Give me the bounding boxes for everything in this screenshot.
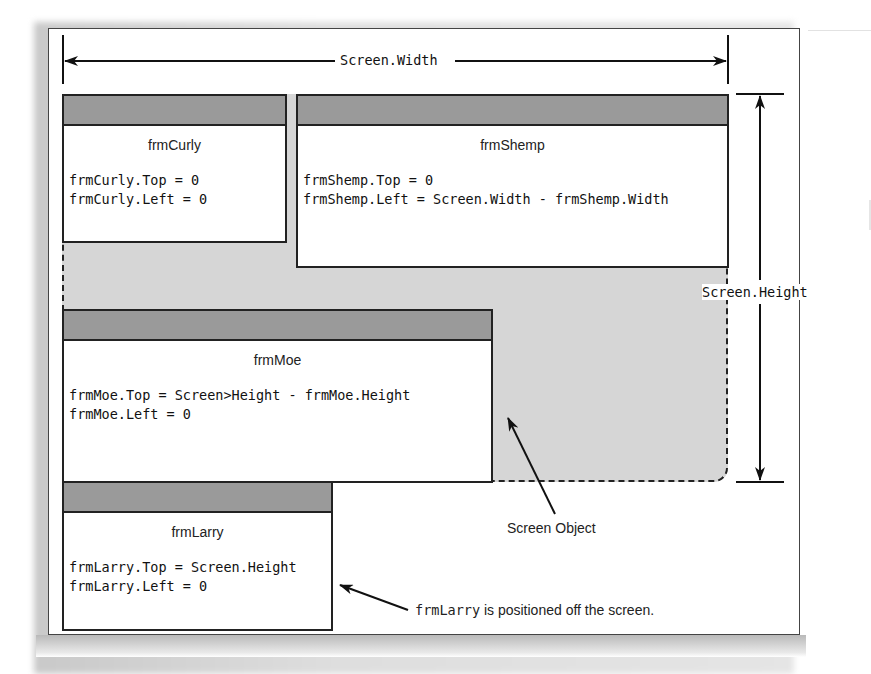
screen-width-label: Screen.Width (338, 52, 440, 68)
callout-text: is positioned off the screen. (480, 602, 654, 618)
screen-height-label: Screen.Height (702, 284, 808, 300)
callout-code: frmLarry (415, 602, 480, 618)
larry-offscreen-callout: frmLarry is positioned off the screen. (415, 602, 654, 618)
screen-object-callout: Screen Object (507, 520, 596, 536)
